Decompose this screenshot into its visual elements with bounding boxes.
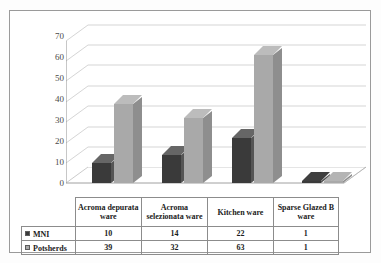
bar-front-face <box>232 138 251 183</box>
column-header-sparse-glazed-b: Sparse Glazed B ware <box>273 198 338 227</box>
bar-group-kitchen-ware <box>230 33 292 183</box>
bar-mni-kitchen-ware <box>232 138 251 183</box>
chart-figure: 70 60 50 40 30 20 10 0 <box>0 0 381 263</box>
bar-side-face <box>203 109 212 183</box>
legend-label-potsherds: Potsherds <box>33 243 67 252</box>
figure-border: 70 60 50 40 30 20 10 0 <box>9 10 371 253</box>
bar-top-face <box>114 95 142 104</box>
bar-front-face <box>114 104 133 183</box>
bar-potsherds-acroma-selezionata <box>184 118 203 183</box>
y-tick-label: 0 <box>38 179 64 188</box>
chart-data-table: Acroma depurata ware Acroma selezionata … <box>21 197 339 255</box>
cell-mni-sparse-glazed-b: 1 <box>273 227 338 241</box>
table-row: Potsherds 39 32 63 1 <box>22 241 339 255</box>
column-header-acroma-depurata: Acroma depurata ware <box>75 198 141 227</box>
y-axis: 70 60 50 40 30 20 10 0 <box>30 17 64 195</box>
legend-swatch-mni-icon <box>25 231 30 236</box>
bar-top-face <box>184 109 212 118</box>
bar-front-face <box>92 163 111 183</box>
bar-side-face <box>133 95 142 183</box>
bar-front-face <box>302 181 321 183</box>
cell-mni-acroma-selezionata: 14 <box>141 227 207 241</box>
bar-potsherds-sparse-glazed-b <box>324 181 343 183</box>
y-tick-label: 70 <box>38 32 64 41</box>
y-tick-label: 40 <box>38 95 64 104</box>
cell-mni-kitchen-ware: 22 <box>208 227 274 241</box>
table-row: MNI 10 14 22 1 <box>22 227 339 241</box>
y-tick-label: 30 <box>38 116 64 125</box>
cell-potsherds-sparse-glazed-b: 1 <box>273 241 338 255</box>
bar-side-face <box>273 46 282 183</box>
bar-mni-acroma-selezionata <box>162 155 181 183</box>
bar-front-face <box>324 181 343 183</box>
plot-area: 70 60 50 40 30 20 10 0 <box>30 17 366 195</box>
bar-potsherds-kitchen-ware <box>254 55 273 183</box>
bars-layer <box>66 17 366 195</box>
cell-mni-acroma-depurata: 10 <box>75 227 141 241</box>
bar-potsherds-acroma-depurata <box>114 104 133 183</box>
bar-top-face <box>254 46 282 55</box>
bar-group-acroma-depurata <box>90 33 152 183</box>
column-header-acroma-selezionata: Acroma selezionata ware <box>141 198 207 227</box>
bar-group-acroma-selezionata <box>160 33 222 183</box>
y-tick-label: 10 <box>38 158 64 167</box>
y-tick-label: 20 <box>38 137 64 146</box>
table-corner-cell <box>22 198 76 227</box>
legend-label-mni: MNI <box>33 229 49 238</box>
bar-front-face <box>254 55 273 183</box>
bar-front-face <box>162 155 181 183</box>
bar-front-face <box>184 118 203 183</box>
legend-swatch-potsherds-icon <box>25 245 30 250</box>
cell-potsherds-acroma-selezionata: 32 <box>141 241 207 255</box>
cell-potsherds-acroma-depurata: 39 <box>75 241 141 255</box>
column-header-kitchen-ware: Kitchen ware <box>208 198 274 227</box>
legend-row-potsherds: Potsherds <box>22 241 76 255</box>
bar-group-sparse-glazed-b <box>300 33 362 183</box>
y-tick-label: 60 <box>38 53 64 62</box>
table-header-row: Acroma depurata ware Acroma selezionata … <box>22 198 339 227</box>
bar-top-face <box>324 172 352 181</box>
y-tick-label: 50 <box>38 74 64 83</box>
legend-row-mni: MNI <box>22 227 76 241</box>
bar-mni-acroma-depurata <box>92 163 111 183</box>
cell-potsherds-kitchen-ware: 63 <box>208 241 274 255</box>
bar-mni-sparse-glazed-b <box>302 181 321 183</box>
